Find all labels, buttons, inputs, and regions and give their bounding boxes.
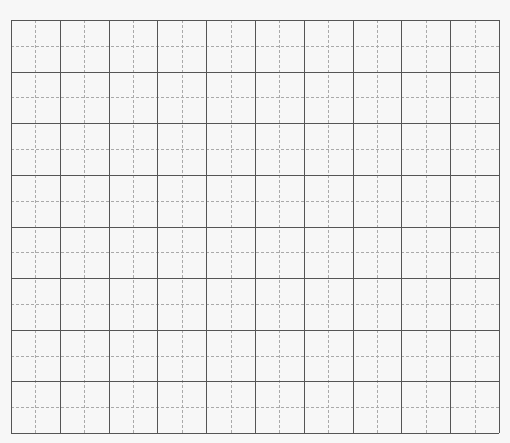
major-gridline-horizontal (11, 433, 499, 434)
major-gridline-horizontal (11, 330, 499, 331)
graph-paper-grid (11, 20, 499, 433)
major-gridline-horizontal (11, 72, 499, 73)
major-gridline-horizontal (11, 175, 499, 176)
major-gridline-horizontal (11, 381, 499, 382)
major-gridline-vertical (499, 20, 500, 433)
major-gridline-horizontal (11, 227, 499, 228)
major-gridline-horizontal (11, 278, 499, 279)
major-gridline-horizontal (11, 123, 499, 124)
major-gridline-horizontal (11, 20, 499, 21)
